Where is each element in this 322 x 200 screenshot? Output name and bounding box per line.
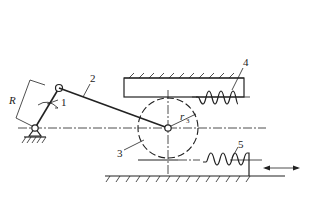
label-connecting-rod: 2 bbox=[90, 72, 96, 84]
mechanism-diagram: R 1 2 r 3 3 4 bbox=[0, 0, 322, 200]
lower-rack bbox=[105, 153, 285, 182]
double-arrow-icon bbox=[263, 166, 300, 171]
label-gear-radius-sub: 3 bbox=[186, 117, 190, 125]
label-R: R bbox=[8, 94, 16, 106]
label-upper-rack: 4 bbox=[243, 56, 249, 68]
label-gear: 3 bbox=[117, 147, 123, 159]
label-lower-rack: 5 bbox=[238, 138, 244, 150]
label-crank: 1 bbox=[61, 96, 67, 108]
label-gear-radius: r bbox=[180, 110, 185, 122]
gear-center bbox=[165, 125, 171, 131]
connecting-rod bbox=[59, 88, 168, 128]
upper-rack bbox=[124, 73, 250, 104]
crank-pivot bbox=[32, 125, 38, 131]
